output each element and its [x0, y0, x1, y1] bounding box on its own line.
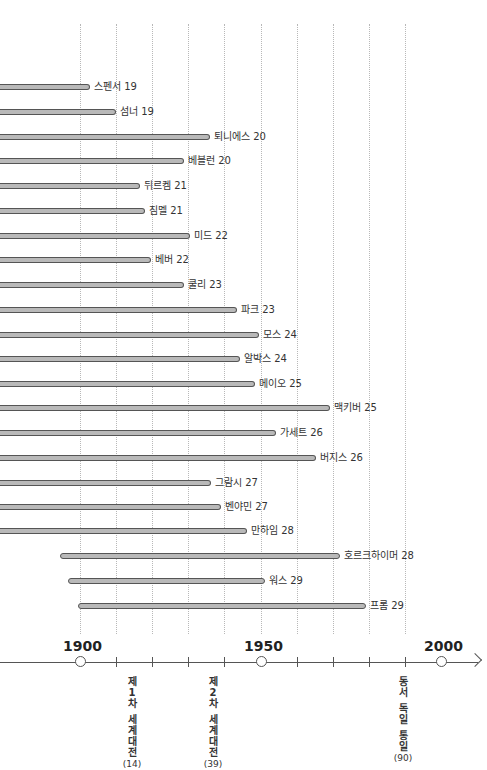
- bar-label: 메이오 25: [259, 378, 302, 390]
- axis-tick: [116, 657, 117, 667]
- gridline: [405, 24, 406, 634]
- year-label: 1950: [244, 638, 283, 654]
- bar-label: 버지스 26: [320, 452, 363, 464]
- lifespan-bar: [0, 282, 184, 288]
- bar-label: 만하임 28: [251, 525, 294, 537]
- bar-label: 퇴니에스 20: [214, 131, 266, 143]
- lifespan-bar: [0, 183, 140, 189]
- event-char: 서: [393, 687, 413, 698]
- bar-label: 맥키버 25: [334, 402, 377, 414]
- lifespan-bar: [0, 356, 240, 362]
- gridline: [80, 24, 81, 634]
- bar-label: 벤야민 27: [225, 501, 268, 513]
- year-marker-circle-icon: [75, 656, 86, 667]
- year-label: 2000: [424, 638, 463, 654]
- event-char: 1: [122, 687, 142, 698]
- axis-tick: [333, 657, 334, 667]
- event-char: 세: [122, 714, 142, 725]
- lifespan-bar: [0, 480, 211, 486]
- event-char: 독: [393, 703, 413, 714]
- bar-label: 베버 22: [155, 254, 189, 266]
- lifespan-bar: [0, 504, 221, 510]
- gridline: [224, 24, 225, 634]
- lifespan-bar: [60, 553, 340, 559]
- bar-label: 베블런 20: [188, 155, 231, 167]
- event-char: 차: [203, 698, 223, 709]
- axis-tick: [188, 657, 189, 667]
- event-char: 일: [393, 741, 413, 752]
- lifespan-bar: [68, 578, 265, 584]
- gridline: [116, 24, 117, 634]
- lifespan-bar: [0, 208, 145, 214]
- lifespan-bar: [0, 455, 316, 461]
- lifespan-bar: [0, 528, 247, 534]
- event-char: 세: [203, 714, 223, 725]
- event-year: (39): [203, 759, 223, 770]
- bar-label: 파크 23: [241, 304, 275, 316]
- year-marker-circle-icon: [436, 656, 447, 667]
- event-label: 제1차세계대전(14): [122, 676, 142, 770]
- event-char: 차: [122, 698, 142, 709]
- gridline: [297, 24, 298, 634]
- gridline: [369, 24, 370, 634]
- bar-label: 프롬 29: [370, 600, 404, 612]
- bar-label: 가세트 26: [280, 427, 323, 439]
- event-year: (14): [122, 759, 142, 770]
- bar-label: 섬너 19: [120, 106, 154, 118]
- bar-label: 모스 24: [263, 329, 297, 341]
- bar-label: 뒤르켐 21: [144, 180, 187, 192]
- lifespan-bar: [0, 109, 116, 115]
- year-marker-circle-icon: [256, 656, 267, 667]
- bar-label: 스펜서 19: [94, 81, 137, 93]
- event-char: 일: [393, 714, 413, 725]
- event-label: 제2차세계대전(39): [203, 676, 223, 770]
- axis-tick: [405, 657, 406, 667]
- lifespan-bar: [0, 158, 184, 164]
- axis-tick: [369, 657, 370, 667]
- gridline: [188, 24, 189, 634]
- lifespan-bar: [78, 603, 366, 609]
- lifespan-bar: [0, 332, 259, 338]
- event-char: 동: [393, 676, 413, 687]
- lifespan-bar: [0, 307, 237, 313]
- event-label: 동서독일통일(90): [393, 676, 413, 764]
- bar-label: 쿨리 23: [188, 279, 222, 291]
- event-char: 대: [203, 736, 223, 747]
- event-char: 제: [122, 676, 142, 687]
- event-year: (90): [393, 753, 413, 764]
- lifespan-bar: [0, 405, 330, 411]
- bar-label: 호르크하이머 28: [344, 550, 414, 562]
- event-char: 대: [122, 736, 142, 747]
- gridline: [261, 24, 262, 634]
- bar-label: 미드 22: [194, 230, 228, 242]
- lifespan-bar: [0, 430, 276, 436]
- axis-tick: [297, 657, 298, 667]
- bar-label: 워스 29: [269, 575, 303, 587]
- axis-arrow-icon: [468, 653, 482, 667]
- bar-label: 그람시 27: [215, 477, 258, 489]
- event-char: 전: [122, 747, 142, 758]
- year-label: 1900: [63, 638, 102, 654]
- axis-tick: [152, 657, 153, 667]
- lifespan-bar: [0, 134, 210, 140]
- lifespan-bar: [0, 257, 151, 263]
- bar-label: 짐멜 21: [149, 205, 183, 217]
- event-char: 계: [122, 725, 142, 736]
- bar-label: 알박스 24: [244, 353, 287, 365]
- lifespan-bar: [0, 381, 255, 387]
- event-char: 계: [203, 725, 223, 736]
- timeline-axis: [0, 662, 478, 663]
- lifespan-bar: [0, 84, 90, 90]
- event-char: 전: [203, 747, 223, 758]
- lifespan-bar: [0, 233, 190, 239]
- event-char: 통: [393, 730, 413, 741]
- event-char: 2: [203, 687, 223, 698]
- gridline: [333, 24, 334, 634]
- axis-tick: [224, 657, 225, 667]
- event-char: 제: [203, 676, 223, 687]
